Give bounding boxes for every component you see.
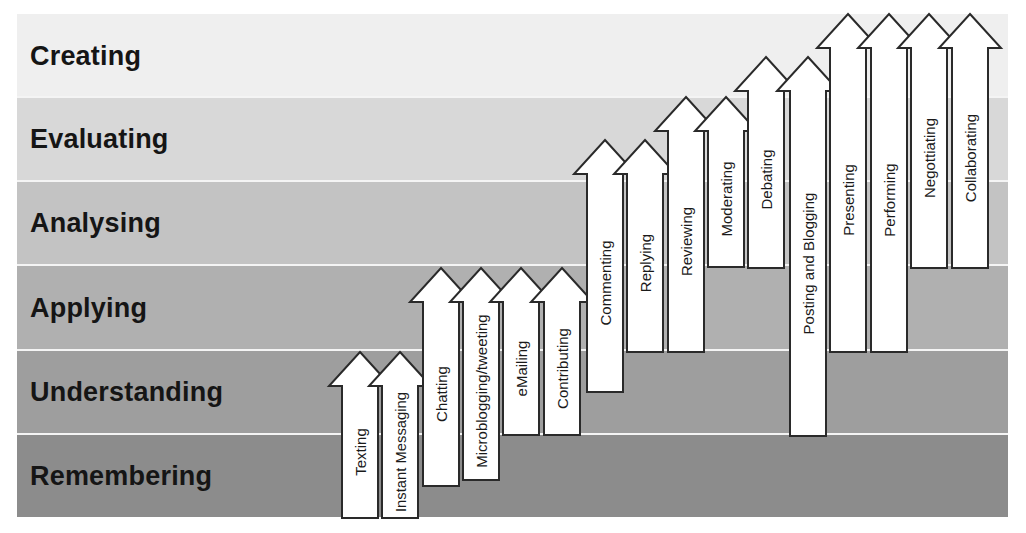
arrow-label: Posting and Blogging xyxy=(800,193,817,335)
arrow-label: Collaborating xyxy=(962,114,979,202)
arrow-label: Chatting xyxy=(433,366,450,422)
activity-arrows: TextingInstant MessagingChattingMicroblo… xyxy=(0,0,1026,533)
arrow-label: eMailing xyxy=(513,341,530,397)
arrow-label: Reviewing xyxy=(678,207,695,276)
arrow-label: Debating xyxy=(758,149,775,209)
arrow-label: Replying xyxy=(637,234,654,292)
arrow-label: Commenting xyxy=(597,240,614,325)
arrow-label: Instant Messaging xyxy=(392,392,409,512)
arrow-label: Negottiating xyxy=(921,118,938,198)
arrow-label: Contributing xyxy=(554,328,571,409)
arrow-contributing: Contributing xyxy=(531,268,593,435)
arrow-label: Performing xyxy=(881,163,898,236)
arrow-label: Moderating xyxy=(718,161,735,236)
arrow-collaborating: Collaborating xyxy=(939,14,1001,268)
arrow-label: Texting xyxy=(352,428,369,476)
arrow-label: Microblogging/tweeting xyxy=(473,314,490,467)
arrow-label: Presenting xyxy=(840,164,857,236)
